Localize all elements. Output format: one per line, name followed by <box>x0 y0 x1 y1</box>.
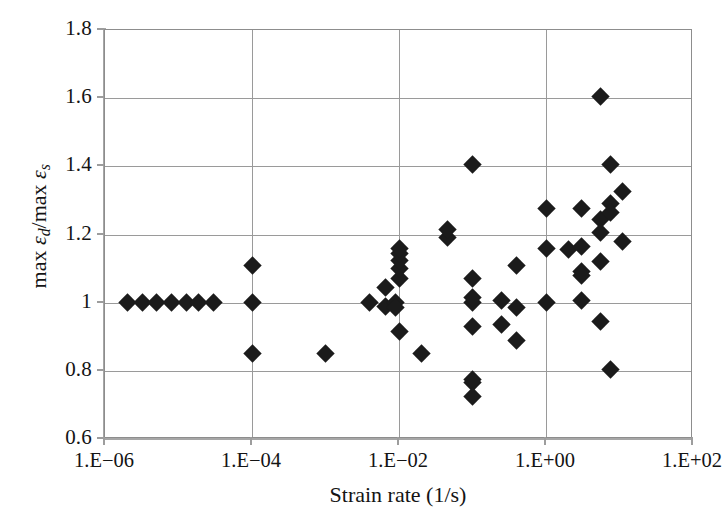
subscript-s: s <box>36 164 53 170</box>
gridline-vertical <box>252 30 253 437</box>
data-point-marker <box>508 331 526 349</box>
data-point-marker <box>537 239 555 257</box>
data-point-marker <box>361 293 379 311</box>
x-tick-label: 1.E−04 <box>176 449 326 471</box>
x-axis-title: Strain rate (1/s) <box>104 482 692 508</box>
data-point-marker <box>508 299 526 317</box>
data-point-marker <box>463 317 481 335</box>
data-point-marker <box>613 183 631 201</box>
plot-area <box>104 29 692 438</box>
x-tick-mark <box>397 437 399 445</box>
data-point-marker <box>493 316 511 334</box>
y-axis-title: max εd/max εs <box>26 16 54 436</box>
data-point-marker <box>591 312 609 330</box>
data-point-marker <box>591 224 609 242</box>
y-tick-mark <box>97 369 104 371</box>
epsilon-symbol-d: ε <box>26 236 51 245</box>
x-tick-label: 1.E−06 <box>29 449 179 471</box>
y-axis-title-slash: /max <box>26 179 51 229</box>
y-tick-mark <box>97 96 104 98</box>
data-point-marker <box>243 256 261 274</box>
data-point-marker <box>537 200 555 218</box>
x-tick-label: 1.E+00 <box>470 449 620 471</box>
data-point-marker <box>591 87 609 105</box>
x-tick-mark <box>691 437 693 445</box>
data-point-marker <box>204 293 222 311</box>
y-tick-mark <box>97 28 104 30</box>
data-point-marker <box>601 360 619 378</box>
x-tick-label: 1.E−02 <box>323 449 473 471</box>
data-point-marker <box>243 293 261 311</box>
data-point-marker <box>376 278 394 296</box>
epsilon-symbol-s: ε <box>26 170 51 179</box>
gridline-vertical <box>399 30 400 437</box>
data-point-marker <box>572 200 590 218</box>
data-point-marker <box>572 237 590 255</box>
x-tick-mark <box>250 437 252 445</box>
data-point-marker <box>508 256 526 274</box>
gridline-vertical <box>546 30 547 437</box>
y-axis-title-prefix: max <box>26 245 51 288</box>
x-tick-label: 1.E+02 <box>617 449 728 471</box>
y-tick-mark <box>97 233 104 235</box>
data-point-marker <box>412 345 430 363</box>
data-point-marker <box>591 253 609 271</box>
data-point-marker <box>601 155 619 173</box>
data-point-marker <box>463 270 481 288</box>
y-tick-mark <box>97 164 104 166</box>
data-point-marker <box>463 387 481 405</box>
data-point-marker <box>390 322 408 340</box>
scatter-chart-figure: 0.60.811.21.41.61.8 1.E−061.E−041.E−021.… <box>0 0 728 522</box>
data-point-marker <box>463 155 481 173</box>
data-point-marker <box>537 293 555 311</box>
x-tick-mark <box>103 437 105 445</box>
data-point-marker <box>316 345 334 363</box>
x-tick-mark <box>544 437 546 445</box>
data-point-marker <box>572 292 590 310</box>
subscript-d: d <box>36 228 53 236</box>
y-tick-mark <box>97 301 104 303</box>
data-point-marker <box>243 345 261 363</box>
